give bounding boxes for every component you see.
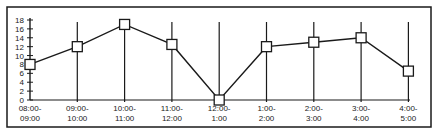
data-point-square <box>120 19 130 29</box>
x-tick-label: 09:00-10:00 <box>66 104 89 123</box>
x-tick-label: 10:00-11:00 <box>113 104 136 123</box>
y-tick-label: 4 <box>20 78 25 87</box>
data-point-square <box>167 39 177 49</box>
y-tick-label: 18 <box>15 16 24 25</box>
y-tick-label: 16 <box>15 25 24 34</box>
y-tick-label: 8 <box>20 60 25 69</box>
line-chart: 024681012141618 08:00-09:0009:00-10:0010… <box>0 0 435 139</box>
x-tick-label: 3:00-4:00 <box>352 104 371 123</box>
data-point-square <box>25 59 35 69</box>
y-tick-label: 12 <box>15 43 24 52</box>
x-tick-label: 4:00-5:00 <box>399 104 418 123</box>
x-tick-label: 12:00-1:00 <box>208 104 231 123</box>
data-point-square <box>403 66 413 76</box>
y-tick-label: 10 <box>15 52 24 61</box>
data-point-square <box>356 33 366 43</box>
x-tick-label: 08:00-09:00 <box>19 104 42 123</box>
data-point-square <box>262 42 272 52</box>
y-tick-label: 2 <box>20 87 25 96</box>
x-tick-label: 2:00-3:00 <box>305 104 324 123</box>
data-point-square <box>72 42 82 52</box>
x-axis-labels: 08:00-09:0009:00-10:0010:00-11:0011:00-1… <box>19 104 418 123</box>
data-point-square <box>309 37 319 47</box>
y-tick-label: 6 <box>20 69 25 78</box>
y-tick-label: 14 <box>15 34 24 43</box>
x-tick-label: 11:00-12:00 <box>161 104 183 123</box>
data-point-square <box>214 95 224 105</box>
x-tick-label: 1:00-2:00 <box>257 104 276 123</box>
